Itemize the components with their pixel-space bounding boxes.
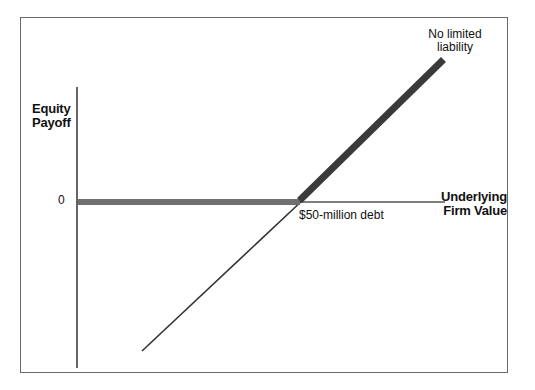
note-line1: No limited <box>415 28 495 41</box>
no-limited-liability-note: No limited liability <box>415 28 495 53</box>
no-limited-liability-line <box>142 198 305 351</box>
y-axis-label: Equity Payoff <box>32 102 71 129</box>
y-axis-label-line2: Payoff <box>32 116 71 130</box>
zero-tick-label: 0 <box>58 194 65 207</box>
x-axis-label-line1: Underlying <box>441 190 507 204</box>
x-axis-label-line2: Firm Value <box>441 204 507 218</box>
debt-label: $50-million debt <box>299 209 384 222</box>
payoff-upside-segment <box>302 62 441 198</box>
x-axis-label: Underlying Firm Value <box>441 190 507 217</box>
y-axis-label-line1: Equity <box>32 102 71 116</box>
note-line2: liability <box>415 41 495 54</box>
